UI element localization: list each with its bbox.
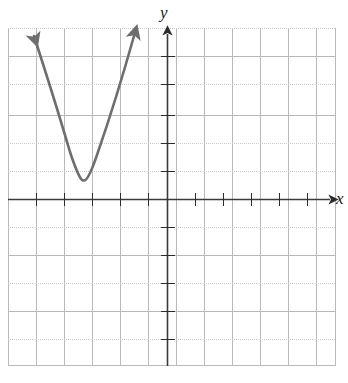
grid-horizontal-lines: [8, 29, 336, 366]
coordinate-plane: [0, 0, 348, 383]
graph-figure: y x: [0, 0, 348, 383]
parabola-curve: [34, 36, 134, 181]
x-axis-label: x: [336, 190, 344, 207]
grid-vertical-lines: [9, 28, 336, 366]
y-axis-label: y: [160, 4, 168, 21]
